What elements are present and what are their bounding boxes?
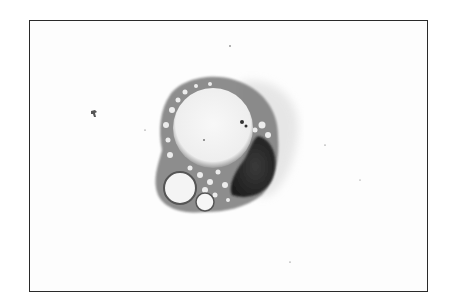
cell-micrograph bbox=[0, 0, 449, 306]
large-vacuole bbox=[173, 88, 253, 168]
